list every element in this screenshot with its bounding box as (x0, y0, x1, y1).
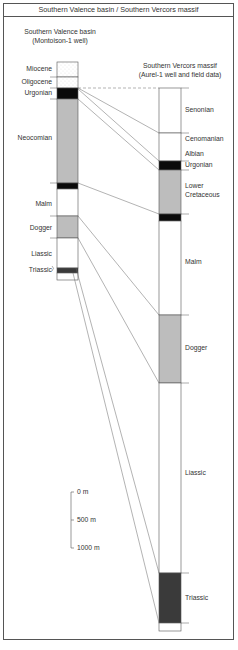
right-column (159, 88, 189, 631)
left-unit-dogger (57, 216, 78, 238)
left-unit-triassic (57, 268, 78, 273)
right-unit-senonian (159, 88, 181, 133)
right-unit-cenomanian-albian (159, 133, 181, 161)
right-unit-lower-cretaceous (159, 170, 181, 214)
left-unit-urgonian (57, 88, 78, 99)
left-label-malm: Malm (0, 201, 52, 208)
correlation-diagram (0, 0, 238, 650)
right-label-cretaceous: Cretaceous (185, 192, 220, 199)
left-label-urgonian: Urgonian (0, 90, 52, 97)
correlation-lines (73, 88, 159, 623)
correlation-line (78, 183, 159, 214)
left-unit-oligocene (57, 77, 78, 88)
left-unit-miocene (57, 62, 78, 77)
correlation-line (76, 268, 159, 573)
left-column (50, 62, 78, 280)
scale-label-0: 0 m (77, 489, 88, 496)
left-unit-black-band (57, 183, 78, 189)
scale-bar (71, 492, 74, 548)
left-label-liassic: Liassic (0, 251, 52, 258)
correlation-line (78, 89, 159, 161)
left-label-dogger: Dogger (0, 225, 52, 232)
left-label-oligocene: Oligocene (0, 79, 52, 86)
left-unit-liassic (57, 238, 78, 268)
correlation-line (73, 273, 159, 623)
correlation-line (78, 99, 159, 170)
left-unit-base (57, 273, 78, 280)
right-label-senonian: Senonian (185, 107, 214, 114)
right-unit-black-band (159, 214, 181, 221)
right-unit-base (159, 623, 181, 631)
left-label-triassic: Triassic (0, 267, 52, 274)
right-unit-dogger (159, 315, 181, 383)
right-unit-urgonian (159, 161, 181, 170)
right-label-dogger: Dogger (185, 345, 207, 352)
right-unit-triassic (159, 573, 181, 623)
right-label-malm: Malm (185, 259, 202, 266)
right-label-liassic: Liassic (185, 470, 206, 477)
correlation-line (78, 216, 159, 315)
correlation-line (78, 88, 159, 133)
right-unit-liassic (159, 383, 181, 573)
left-unit-malm (57, 189, 78, 216)
right-label-lower: Lower (185, 183, 204, 190)
scale-label-500: 500 m (77, 517, 96, 524)
left-label-neocomian: Neocomian (0, 135, 52, 142)
left-label-miocene: Miocene (0, 66, 52, 73)
correlation-line (78, 238, 159, 383)
scale-label-1000: 1000 m (77, 545, 100, 552)
left-unit-neocomian (57, 99, 78, 183)
right-label-triassic: Triassic (185, 595, 208, 602)
right-label-urgonian: Urgonian (185, 162, 213, 169)
right-label-cenomanian: Cenomanian (185, 136, 224, 143)
right-label-albian: Albian (185, 151, 204, 158)
right-unit-malm (159, 221, 181, 315)
